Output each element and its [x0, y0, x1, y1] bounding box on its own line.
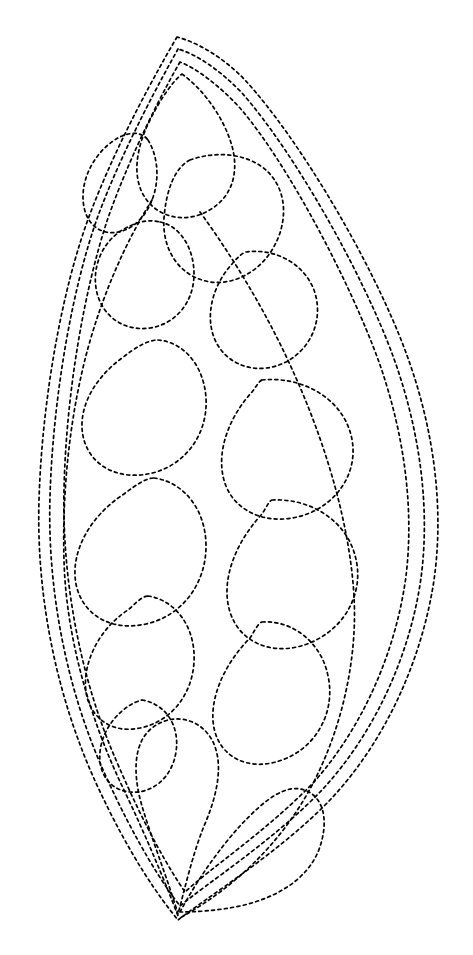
petal-right-2: [210, 251, 317, 368]
petal-left-small-bottom: [100, 700, 177, 792]
petal-right-4: [227, 500, 358, 649]
petal-left-1: [83, 133, 157, 232]
petal-left-2: [95, 221, 194, 329]
pattern-paths-group: [39, 37, 438, 920]
petal-right-5: [213, 622, 330, 764]
inner-border-leaf-2: [64, 62, 409, 892]
petal-right-upper-large: [164, 155, 284, 283]
petal-left-5: [85, 596, 194, 729]
vein-right-inner: [180, 212, 355, 918]
petal-left-3: [82, 340, 206, 475]
outer-border-leaf: [39, 37, 438, 920]
petal-right-3: [222, 379, 353, 519]
petal-left-4: [75, 478, 206, 626]
stencil-canvas: [0, 0, 473, 955]
pattern-svg: [0, 0, 473, 955]
